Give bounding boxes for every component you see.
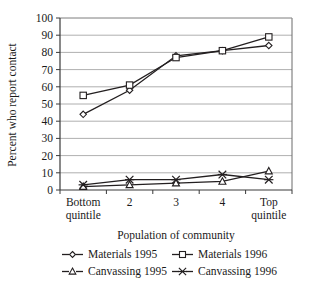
y-tick-label: 0 [47, 184, 53, 196]
y-tick-label: 10 [42, 167, 54, 179]
legend-label: Materials 1996 [198, 248, 268, 260]
y-tick-label: 50 [42, 98, 54, 110]
y-axis-title: Percent who report contact [6, 42, 19, 166]
marker-square [173, 54, 179, 60]
marker-square [126, 82, 132, 88]
y-tick-label: 90 [42, 29, 54, 41]
x-tick-label: Top [260, 196, 278, 209]
legend-label: Materials 1995 [88, 248, 158, 260]
y-tick-label: 30 [42, 132, 54, 144]
legend-label: Canvassing 1996 [198, 265, 277, 278]
x-tick-label: Bottom [66, 196, 101, 208]
marker-square [266, 34, 272, 40]
line-chart: 0102030405060708090100 Bottomquintile234… [0, 0, 310, 294]
y-tick-label: 40 [42, 115, 54, 127]
x-tick-label: 2 [127, 196, 133, 208]
marker-square [219, 47, 225, 53]
x-axis-title: Population of community [117, 229, 235, 242]
y-tick-label: 70 [42, 64, 54, 76]
chart-figure: 0102030405060708090100 Bottomquintile234… [0, 0, 310, 294]
x-tick-label: quintile [66, 209, 101, 222]
marker-square [180, 252, 186, 258]
y-tick-label: 20 [42, 150, 54, 162]
x-tick-label: 3 [173, 196, 179, 208]
y-tick-label: 100 [36, 12, 54, 24]
legend-label: Canvassing 1995 [88, 265, 167, 278]
marker-square [80, 92, 86, 98]
y-tick-label: 60 [42, 81, 54, 93]
y-tick-label: 80 [42, 46, 54, 58]
x-tick-label: quintile [251, 209, 286, 222]
x-tick-label: 4 [220, 196, 226, 208]
